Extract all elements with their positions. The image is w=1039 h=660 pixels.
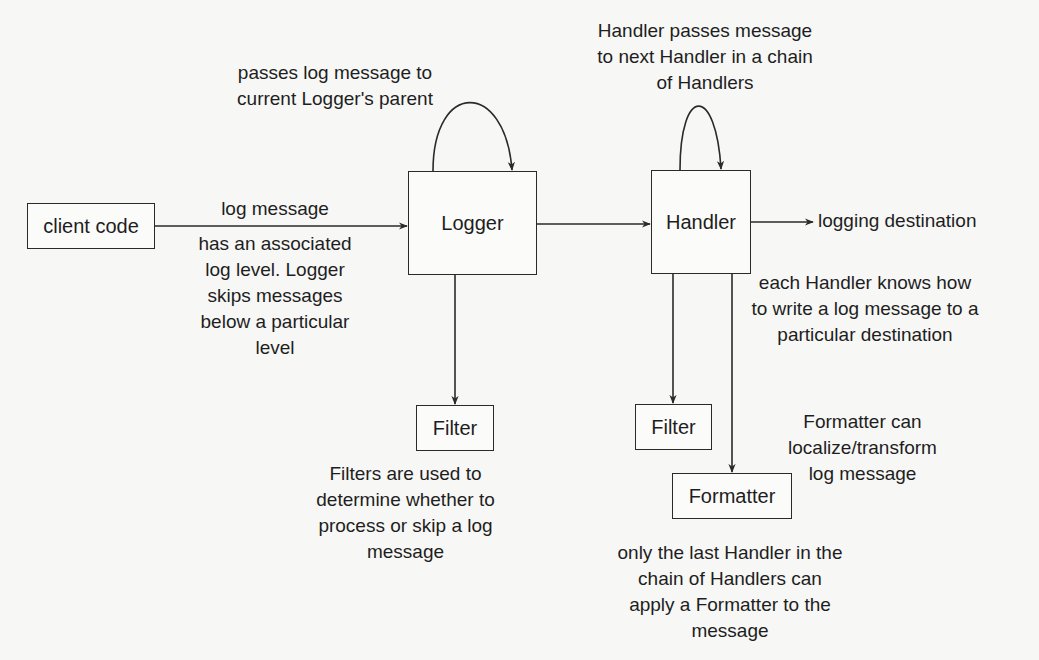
arrow-logger-parent-loop <box>433 103 512 171</box>
client-code-node: client code <box>27 203 155 249</box>
last-handler-annotation: only the last Handler in the chain of Ha… <box>580 540 880 644</box>
logger-filter-node: Filter <box>416 405 494 451</box>
arrow-handler-chain-loop <box>680 106 721 170</box>
handler-node: Handler <box>651 170 751 274</box>
formatter-description-annotation: Formatter can localize/transform log mes… <box>770 409 955 487</box>
filter-description-annotation: Filters are used to determine whether to… <box>293 461 518 565</box>
logger-node: Logger <box>408 171 537 275</box>
log-message-label: log message <box>200 196 350 222</box>
logger-parent-annotation: passes log message to current Logger's p… <box>200 60 470 112</box>
handler-destination-annotation: each Handler knows how to write a log me… <box>735 270 995 348</box>
handler-chain-annotation: Handler passes message to next Handler i… <box>555 18 855 96</box>
handler-filter-node: Filter <box>635 404 712 450</box>
logging-destination-label: logging destination <box>818 208 1018 234</box>
log-level-annotation: has an associated log level. Logger skip… <box>170 231 380 361</box>
